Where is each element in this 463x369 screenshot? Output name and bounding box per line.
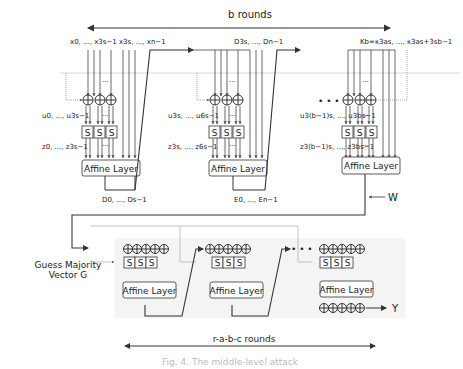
svg-text:...: ...	[229, 110, 236, 118]
round1-input-label: x0, ..., x3s−1 x3s, ..., xn−1	[70, 38, 166, 46]
xor-icon	[106, 95, 116, 105]
svg-text:...: ...	[362, 140, 369, 148]
svg-text:S: S	[138, 258, 144, 268]
svg-text:S: S	[127, 258, 133, 268]
svg-text:S: S	[85, 128, 91, 138]
y-label: Y	[391, 303, 399, 314]
top-span: b rounds	[88, 9, 390, 28]
svg-text:Affine Layer: Affine Layer	[344, 161, 398, 171]
svg-text:...: ...	[102, 140, 109, 148]
svg-text:S: S	[224, 128, 230, 138]
round1-z-label: z0, ..., z3s−1	[42, 143, 88, 151]
svg-text:Affine Layer: Affine Layer	[211, 164, 265, 174]
svg-text:S: S	[212, 128, 218, 138]
affine-layer-label: Affine Layer	[84, 164, 138, 174]
svg-text:S: S	[237, 258, 243, 268]
round3-input-label: Kb=κ3as, ..., κ3as+3sb−1	[360, 38, 452, 46]
svg-text:S: S	[369, 128, 375, 138]
round1-output-label: D0, ..., Ds−1	[102, 196, 147, 204]
round2-z-label: z3s, ..., z6s−1	[168, 143, 217, 151]
svg-text:S: S	[149, 258, 155, 268]
round2-input-label: D3s, ..., Dn−1	[234, 38, 283, 46]
svg-text:S: S	[334, 258, 340, 268]
svg-text:...: ...	[229, 76, 236, 84]
sbox-row: S S S	[82, 126, 117, 138]
svg-text:...: ...	[102, 76, 109, 84]
r-a-b-c-rounds-label: r-a-b-c rounds	[213, 334, 276, 344]
w-label: W	[388, 192, 398, 203]
svg-text:S: S	[215, 258, 221, 268]
bottom-span: r-a-b-c rounds	[125, 334, 375, 346]
svg-text:S: S	[236, 128, 242, 138]
svg-text:...: ...	[102, 110, 109, 118]
figure-caption: Fig. 4. The middle-level attack	[162, 357, 299, 367]
svg-text:S: S	[357, 128, 363, 138]
guess-label-line1: Guess Majority	[35, 260, 102, 270]
svg-text:S: S	[323, 258, 329, 268]
svg-text:S: S	[109, 128, 115, 138]
svg-text:S: S	[345, 128, 351, 138]
svg-text:...: ...	[229, 140, 236, 148]
attack-diagram: b rounds x0, ..., x3s−1 x3s, ..., xn−1 .…	[0, 0, 463, 369]
b-rounds-label: b rounds	[228, 9, 272, 20]
round1-u-label: u0, ..., u3s−1	[42, 112, 89, 120]
guess-label-line2: Vector G	[49, 270, 88, 280]
svg-text:Affine Layer: Affine Layer	[319, 285, 373, 295]
round-2: D3s, ..., Dn−1 ... u3s, ..., u6s−1 ...	[168, 38, 300, 204]
svg-text:• • •: • • •	[291, 244, 313, 254]
svg-text:Affine Layer: Affine Layer	[122, 286, 176, 296]
round2-output-label: E0, ..., En−1	[234, 196, 278, 204]
round2-u-label: u3s, ..., u6s−1	[168, 112, 219, 120]
svg-text:Affine Layer: Affine Layer	[209, 286, 263, 296]
ellipsis: • • •	[318, 96, 340, 106]
svg-text:S: S	[226, 258, 232, 268]
lower-section: Guess Majority Vector G S S S Affine Lay…	[35, 226, 405, 318]
xor-icon	[95, 95, 105, 105]
round-1: x0, ..., x3s−1 x3s, ..., xn−1 ... u0, ..…	[42, 38, 193, 204]
xor-icon	[83, 95, 93, 105]
svg-text:S: S	[345, 258, 351, 268]
svg-text:...: ...	[362, 110, 369, 118]
svg-text:S: S	[97, 128, 103, 138]
svg-text:...: ...	[362, 76, 369, 84]
